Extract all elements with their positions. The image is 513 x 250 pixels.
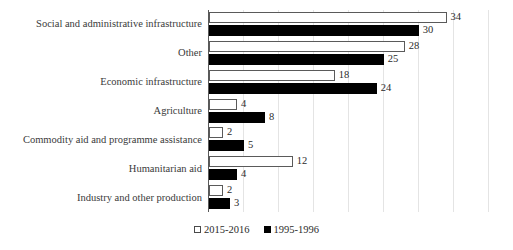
bar-value-label: 2 <box>227 183 232 197</box>
bar-group: 2825 <box>209 39 505 68</box>
bar-1995-1996[interactable] <box>209 54 384 65</box>
category-axis-labels: Social and administrative infrastructure… <box>0 10 202 212</box>
bar-2015-2016[interactable] <box>209 99 237 110</box>
bar-group: 3430 <box>209 10 505 39</box>
legend-label: 1995-1996 <box>274 224 320 235</box>
legend-swatch-icon <box>264 226 271 233</box>
category-label: Other <box>2 47 202 59</box>
bar-1995-1996[interactable] <box>209 83 377 94</box>
bar-group: 23 <box>209 183 505 212</box>
bar-1995-1996[interactable] <box>209 140 244 151</box>
category-label: Commodity aid and programme assistance <box>2 134 202 146</box>
bar-chart: Social and administrative infrastructure… <box>0 0 513 250</box>
bar-group: 48 <box>209 97 505 126</box>
bar-group: 25 <box>209 125 505 154</box>
bar-value-label: 4 <box>241 167 246 181</box>
bar-1995-1996[interactable] <box>209 198 230 209</box>
plot-area: 343028251824482512423 <box>208 10 505 212</box>
chart-legend: 2015-20161995-1996 <box>0 224 513 235</box>
category-label: Agriculture <box>2 105 202 117</box>
bar-value-label: 5 <box>248 138 253 152</box>
legend-label: 2015-2016 <box>204 224 250 235</box>
bar-2015-2016[interactable] <box>209 127 223 138</box>
bar-value-label: 34 <box>451 10 462 24</box>
bar-value-label: 3 <box>234 196 239 210</box>
bar-1995-1996[interactable] <box>209 112 265 123</box>
bar-1995-1996[interactable] <box>209 169 237 180</box>
bar-value-label: 2 <box>227 125 232 139</box>
bar-1995-1996[interactable] <box>209 25 419 36</box>
category-label: Humanitarian aid <box>2 163 202 175</box>
legend-item-2015-2016[interactable]: 2015-2016 <box>194 224 250 235</box>
bar-value-label: 28 <box>409 39 420 53</box>
bar-group: 124 <box>209 154 505 183</box>
category-label: Economic infrastructure <box>2 76 202 88</box>
bar-2015-2016[interactable] <box>209 12 447 23</box>
category-label: Social and administrative infrastructure <box>2 18 202 30</box>
bar-value-label: 30 <box>423 23 434 37</box>
bar-2015-2016[interactable] <box>209 185 223 196</box>
bar-group: 1824 <box>209 68 505 97</box>
bar-value-label: 24 <box>381 81 392 95</box>
bar-2015-2016[interactable] <box>209 70 335 81</box>
legend-item-1995-1996[interactable]: 1995-1996 <box>264 224 320 235</box>
bar-value-label: 18 <box>339 68 350 82</box>
bar-value-label: 12 <box>297 154 308 168</box>
category-label: Industry and other production <box>2 192 202 204</box>
bar-value-label: 4 <box>241 97 246 111</box>
bar-2015-2016[interactable] <box>209 41 405 52</box>
legend-swatch-icon <box>194 226 201 233</box>
bar-value-label: 25 <box>388 52 399 66</box>
bar-value-label: 8 <box>269 110 274 124</box>
bar-2015-2016[interactable] <box>209 156 293 167</box>
